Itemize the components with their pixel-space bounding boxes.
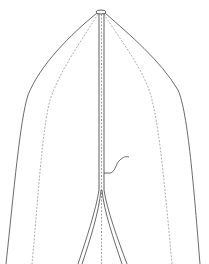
split-leg-right-outer bbox=[104, 190, 127, 264]
patent-drawing bbox=[0, 0, 209, 264]
leader-line bbox=[104, 157, 129, 173]
apex-cap bbox=[96, 10, 106, 14]
split-leg-left-inner bbox=[82, 190, 101, 264]
inner-right-profile bbox=[104, 14, 172, 264]
split-leg-left-outer bbox=[78, 190, 99, 264]
outer-left-profile bbox=[6, 13, 97, 264]
drawing-canvas bbox=[0, 0, 209, 264]
outer-right-profile bbox=[105, 13, 200, 264]
inner-left-profile bbox=[32, 14, 98, 264]
split-leg-right-inner bbox=[102, 190, 122, 264]
